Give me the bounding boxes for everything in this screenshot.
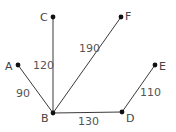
node-d-dot: [120, 110, 125, 115]
node-e-dot: [153, 63, 158, 68]
node-f-dot: [119, 15, 124, 20]
edge-weights-group: 90120190130110: [16, 42, 161, 128]
node-label-f: F: [125, 10, 131, 23]
node-label-c: C: [40, 11, 48, 24]
edge-b-d: [53, 112, 122, 113]
edge-weight-label: 190: [79, 42, 100, 55]
node-label-e: E: [159, 60, 166, 73]
node-label-a: A: [5, 60, 13, 73]
node-c-dot: [51, 15, 56, 20]
edge-f-b: [53, 17, 121, 113]
edge-weight-label: 120: [33, 59, 54, 72]
node-a-dot: [16, 63, 21, 68]
node-label-b: B: [41, 112, 49, 125]
edge-weight-label: 130: [78, 115, 99, 128]
edge-weight-label: 90: [16, 87, 30, 100]
edge-weight-label: 110: [140, 86, 161, 99]
node-b-dot: [51, 111, 56, 116]
weighted-graph-diagram: 90120190130110 ABCDEF: [0, 0, 176, 132]
node-label-d: D: [126, 112, 134, 125]
